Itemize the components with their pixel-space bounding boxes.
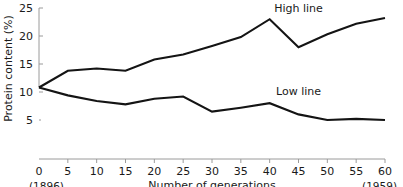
chart-figure: 510152025 051015202530354045505560 Numbe… xyxy=(0,0,403,187)
x-tick-label: 35 xyxy=(234,165,248,178)
x-tick-label: 0 xyxy=(36,165,43,178)
series-annotation-high-line: High line xyxy=(274,2,323,15)
series-line-low-line xyxy=(39,88,385,120)
x-tick-label: 15 xyxy=(119,165,133,178)
x-tick-label: 25 xyxy=(176,165,190,178)
y-tick-label: 20 xyxy=(19,30,33,43)
y-tick-label: 5 xyxy=(26,114,33,127)
y-axis-title: Protein content (%) xyxy=(2,15,15,122)
protein-content-line-chart: 510152025 051015202530354045505560 Numbe… xyxy=(0,0,403,187)
x-axis: 051015202530354045505560 xyxy=(36,159,393,178)
y-tick-label: 15 xyxy=(19,58,33,71)
x-tick-label: 45 xyxy=(292,165,306,178)
series-annotation-low-line: Low line xyxy=(276,85,321,98)
x-axis-start-year: (1896) xyxy=(29,180,64,187)
x-tick-label: 60 xyxy=(378,165,392,178)
x-tick-label: 5 xyxy=(64,165,71,178)
y-tick-label: 10 xyxy=(19,86,33,99)
y-axis: 510152025 xyxy=(19,2,43,127)
x-tick-label: 20 xyxy=(147,165,161,178)
x-tick-label: 10 xyxy=(90,165,104,178)
x-tick-label: 55 xyxy=(349,165,363,178)
y-tick-label: 25 xyxy=(19,2,33,15)
x-axis-end-year: (1959) xyxy=(362,180,397,187)
x-tick-label: 40 xyxy=(263,165,277,178)
data-series-group xyxy=(39,18,385,120)
x-tick-label: 30 xyxy=(205,165,219,178)
series-line-high-line xyxy=(39,18,385,87)
x-tick-label: 50 xyxy=(320,165,334,178)
x-axis-title: Number of generations xyxy=(148,179,276,187)
